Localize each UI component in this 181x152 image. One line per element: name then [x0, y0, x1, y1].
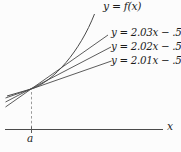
secant-line-2-03 [6, 35, 109, 107]
secant-equation-label-3: y = 2.01x − .51 [111, 54, 181, 66]
figure-canvas [0, 0, 181, 152]
x-axis-label: x [167, 121, 173, 133]
secant-equation-label-2: y = 2.02x − .52 [111, 40, 181, 52]
function-curve [7, 14, 95, 96]
secant-equation-label-1: y = 2.03x − .53 [111, 26, 181, 38]
point-a-label: a [27, 132, 33, 144]
function-graph-figure: y = f(x) y = 2.03x − .53 y = 2.02x − .52… [0, 0, 181, 152]
secant-line-2-02 [6, 47, 112, 102]
curve-equation-label: y = f(x) [103, 1, 141, 13]
secant-line-2-01 [6, 61, 112, 98]
